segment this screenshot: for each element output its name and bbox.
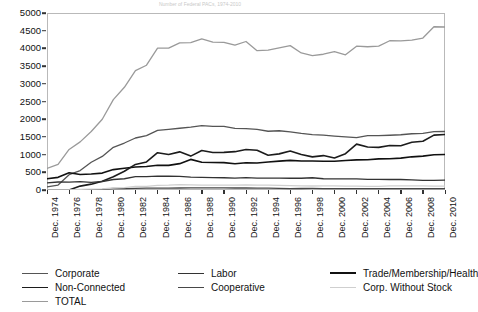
y-axis-tick-label: 2000 — [20, 114, 41, 124]
legend-swatch-line — [22, 287, 48, 288]
legend-item: Labor — [178, 266, 237, 280]
legend-swatch-line — [330, 287, 356, 288]
y-axis-tick-mark — [42, 83, 46, 85]
legend-label: Cooperative — [211, 282, 265, 293]
y-axis-tick-mark — [42, 12, 46, 14]
x-axis: Dec. 1974Dec. 1976Dec. 1978Dec. 1980Dec.… — [47, 190, 445, 262]
legend-item: Corporate — [22, 266, 99, 280]
x-axis-tick-label: Dec. 1980 — [117, 197, 126, 238]
y-axis: 0500100015002000250030003500400045005000 — [0, 13, 47, 190]
legend-label: TOTAL — [55, 296, 86, 307]
legend-item: Trade/Membership/Health — [330, 266, 478, 280]
x-axis-tick-mark — [135, 190, 136, 194]
x-axis-tick-label: Dec. 1982 — [139, 197, 148, 238]
legend-item: Cooperative — [178, 280, 265, 294]
y-axis-tick-mark — [42, 154, 46, 156]
x-axis-tick-mark — [69, 190, 70, 194]
x-axis-tick-label: Dec. 1990 — [228, 197, 237, 238]
x-axis-tick-label: Dec. 1986 — [184, 197, 193, 238]
legend-swatch-line — [22, 273, 48, 274]
y-axis-tick-mark — [42, 172, 46, 174]
y-axis-tick-mark — [42, 65, 46, 67]
x-axis-tick-label: Dec. 2000 — [338, 197, 347, 238]
legend-label: Corporate — [55, 268, 99, 279]
x-axis-tick-mark — [91, 190, 92, 194]
x-axis-tick-label: Dec. 1996 — [294, 197, 303, 238]
y-axis-tick-mark — [42, 118, 46, 120]
y-axis-tick-mark — [42, 136, 46, 138]
y-axis-tick-mark — [42, 48, 46, 50]
y-axis-tick-label: 1000 — [20, 150, 41, 160]
y-axis-tick-mark — [42, 189, 46, 191]
x-axis-tick-label: Dec. 1994 — [272, 197, 281, 238]
x-axis-tick-label: Dec. 1998 — [316, 197, 325, 238]
x-axis-tick-label: Dec. 2008 — [427, 197, 436, 238]
x-axis-tick-mark — [356, 190, 357, 194]
legend-label: Trade/Membership/Health — [363, 268, 478, 279]
x-axis-tick-mark — [400, 190, 401, 194]
x-axis-tick-label: Dec. 1992 — [250, 197, 259, 238]
series-line-trade-membership-health — [47, 155, 445, 179]
y-axis-tick-mark — [42, 30, 46, 32]
x-axis-tick-label: Dec. 2004 — [383, 197, 392, 238]
x-axis-tick-mark — [312, 190, 313, 194]
x-axis-tick-label: Dec. 1988 — [206, 197, 215, 238]
x-axis-tick-mark — [223, 190, 224, 194]
x-axis-tick-mark — [47, 190, 48, 194]
x-axis-tick-mark — [445, 190, 446, 194]
x-axis-tick-mark — [290, 190, 291, 194]
y-axis-tick-label: 4500 — [20, 26, 41, 36]
x-axis-tick-label: Dec. 1984 — [162, 197, 171, 238]
legend-swatch-line — [22, 301, 48, 302]
x-axis-tick-label: Dec. 1974 — [51, 197, 60, 238]
x-axis-tick-label: Dec. 1976 — [73, 197, 82, 238]
y-axis-tick-label: 2500 — [20, 97, 41, 107]
legend-item: Non-Connected — [22, 280, 125, 294]
y-axis-tick-label: 3000 — [20, 79, 41, 89]
x-axis-tick-mark — [378, 190, 379, 194]
legend-swatch-line — [330, 272, 356, 274]
x-axis-tick-mark — [246, 190, 247, 194]
x-axis-tick-mark — [268, 190, 269, 194]
y-axis-tick-mark — [42, 101, 46, 103]
legend-label: Labor — [211, 268, 237, 279]
series-line-total — [47, 27, 445, 169]
legend-label: Corp. Without Stock — [363, 282, 452, 293]
y-axis-tick-label: 3500 — [20, 61, 41, 71]
x-axis-tick-label: Dec. 2006 — [405, 197, 414, 238]
chart-legend: CorporateLaborTrade/Membership/HealthNon… — [0, 264, 460, 312]
x-axis-tick-mark — [201, 190, 202, 194]
y-axis-tick-label: 500 — [25, 167, 41, 177]
x-axis-tick-mark — [157, 190, 158, 194]
legend-swatch-line — [178, 273, 204, 274]
x-axis-tick-label: Dec. 1978 — [95, 197, 104, 238]
legend-swatch-line — [178, 287, 204, 288]
x-axis-tick-mark — [422, 190, 423, 194]
legend-item: Corp. Without Stock — [330, 280, 452, 294]
y-axis-tick-label: 4000 — [20, 43, 41, 53]
y-axis-tick-label: 0 — [36, 185, 41, 195]
legend-item: TOTAL — [22, 294, 86, 308]
y-axis-tick-label: 1500 — [20, 132, 41, 142]
x-axis-tick-mark — [334, 190, 335, 194]
x-axis-tick-mark — [179, 190, 180, 194]
y-axis-tick-label: 5000 — [20, 8, 41, 18]
legend-label: Non-Connected — [55, 282, 125, 293]
x-axis-tick-label: Dec. 2010 — [449, 197, 458, 238]
x-axis-tick-mark — [113, 190, 114, 194]
faint-chart-title: Number of Federal PACs, 1974-2010 — [100, 0, 300, 9]
chart-plot-area — [47, 13, 445, 190]
x-axis-tick-label: Dec. 2002 — [361, 197, 370, 238]
